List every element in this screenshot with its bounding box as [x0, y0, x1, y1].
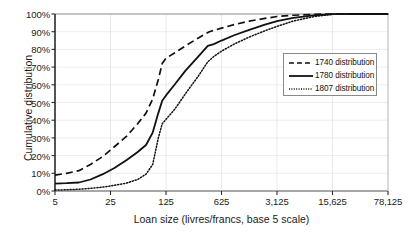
legend-item-1740: 1740 distribution — [284, 56, 376, 69]
x-tick-label: 625 — [214, 196, 230, 207]
x-tick-label: 25 — [105, 196, 115, 207]
x-tick-label: 3,125 — [265, 196, 288, 207]
legend-swatch-dotted-icon — [288, 84, 314, 94]
legend-swatch-solid-icon — [288, 71, 314, 81]
legend-label-1740: 1740 distribution — [314, 58, 374, 67]
x-tick-label: 78,125 — [374, 196, 402, 207]
chart-legend: 1740 distribution 1780 distribution 1807… — [283, 53, 377, 96]
legend-label-1780: 1780 distribution — [314, 71, 374, 80]
x-axis-title: Loan size (livres/francs, base 5 scale) — [55, 213, 388, 225]
legend-item-1807: 1807 distribution — [284, 82, 376, 95]
legend-item-1780: 1780 distribution — [284, 69, 376, 82]
x-tick-label: 125 — [158, 196, 174, 207]
y-axis-title: Cumulative distribution — [22, 28, 34, 188]
chart-container: 0%10%20%30%40%50%60%70%80%90%100% 525125… — [0, 0, 414, 234]
y-tick-label: 100% — [8, 9, 50, 20]
x-tick-label: 15,625 — [318, 196, 346, 207]
legend-label-1807: 1807 distribution — [314, 84, 374, 93]
x-tick-label: 5 — [52, 196, 57, 207]
plot-svg — [0, 0, 414, 234]
legend-swatch-dashed-icon — [288, 58, 314, 68]
